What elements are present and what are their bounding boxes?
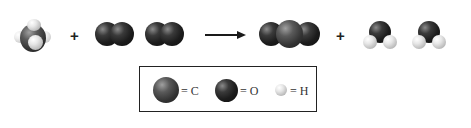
oxygen-atom bbox=[110, 22, 134, 46]
water-molecule bbox=[363, 21, 397, 51]
hydrogen-atom bbox=[432, 35, 446, 49]
reaction-arrow bbox=[205, 30, 247, 40]
legend-carbon-atom bbox=[153, 77, 179, 103]
hydrogen-atom bbox=[363, 35, 377, 49]
methane-molecule bbox=[16, 18, 50, 54]
oxygen-atom bbox=[160, 22, 184, 46]
arrow-head-icon bbox=[237, 31, 246, 39]
legend-label-carbon: = C bbox=[181, 85, 199, 97]
hydrogen-atom bbox=[28, 35, 43, 50]
oxygen-molecule bbox=[95, 22, 135, 48]
oxygen-molecule bbox=[145, 22, 185, 48]
legend-label-hydrogen: = H bbox=[290, 85, 308, 97]
legend-label-oxygen: = O bbox=[240, 85, 258, 97]
legend-hydrogen-atom bbox=[275, 84, 287, 96]
arrow-shaft bbox=[205, 34, 239, 36]
hydrogen-atom bbox=[383, 35, 397, 49]
legend-oxygen-atom bbox=[215, 79, 238, 102]
hydrogen-atom bbox=[412, 35, 426, 49]
legend-box: = C = O = H bbox=[139, 66, 317, 112]
plus-sign: + bbox=[336, 28, 345, 43]
plus-sign: + bbox=[70, 28, 79, 43]
hydrogen-atom bbox=[27, 19, 41, 31]
carbon-dioxide-molecule bbox=[259, 20, 321, 50]
water-molecule bbox=[412, 21, 446, 51]
carbon-atom bbox=[276, 20, 303, 48]
